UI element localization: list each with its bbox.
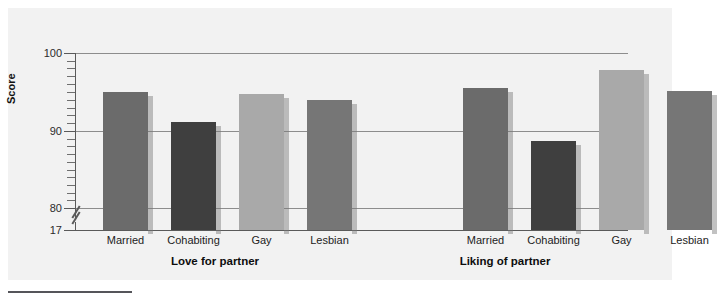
y-tick-minor	[67, 84, 75, 85]
y-tick-label-100: 100	[32, 48, 62, 58]
group-label-love-for-partner: Love for partner	[70, 255, 360, 267]
y-axis-line	[75, 53, 76, 220]
y-axis-title: Score	[5, 73, 17, 104]
bar-love-for-partner-married	[103, 92, 148, 230]
y-tick-minor	[67, 68, 75, 69]
y-tick-minor	[67, 185, 75, 186]
group-label-liking-of-partner: Liking of partner	[360, 255, 650, 267]
y-tick-minor	[67, 115, 75, 116]
bar-love-for-partner-lesbian	[307, 100, 352, 230]
bar-body	[103, 92, 148, 230]
y-tick-minor	[67, 193, 75, 194]
bar-shadow	[284, 98, 289, 234]
bar-shadow	[148, 96, 153, 234]
figure-panel: 100 90 80 17 Score MarriedCohabitingGayL…	[8, 8, 672, 280]
y-tick-minor	[67, 123, 75, 124]
bar-shadow	[712, 95, 717, 234]
y-tick-minor	[67, 154, 75, 155]
y-tick-minor	[67, 92, 75, 93]
bar-love-for-partner-cohabiting	[171, 122, 216, 230]
y-tick-17	[64, 230, 75, 231]
x-tick-label-lesbian: Lesbian	[284, 234, 376, 246]
y-tick-minor	[67, 146, 75, 147]
y-tick-label-17: 17	[32, 225, 62, 235]
y-tick-minor	[67, 76, 75, 77]
bar-liking-of-partner-cohabiting	[531, 141, 576, 230]
bar-body	[667, 91, 712, 230]
bar-love-for-partner-gay	[239, 94, 284, 230]
bar-body	[171, 122, 216, 230]
x-tick-label-lesbian: Lesbian	[644, 234, 721, 246]
bar-body	[239, 94, 284, 230]
y-tick-minor	[67, 177, 75, 178]
bar-liking-of-partner-married	[463, 88, 508, 230]
plot-area: 100 90 80 17 Score MarriedCohabitingGayL…	[8, 8, 672, 280]
bar-body	[463, 88, 508, 230]
caption-rule	[8, 291, 132, 293]
bar-shadow	[508, 92, 513, 234]
y-tick-minor	[67, 108, 75, 109]
y-tick-minor	[67, 139, 75, 140]
gridline-100	[75, 53, 628, 54]
bar-body	[307, 100, 352, 230]
bar-liking-of-partner-gay	[599, 70, 644, 230]
bar-shadow	[216, 126, 221, 234]
y-tick-minor	[67, 200, 75, 201]
y-tick-90	[64, 131, 75, 132]
y-tick-minor	[67, 100, 75, 101]
y-tick-minor	[67, 61, 75, 62]
bar-shadow	[352, 104, 357, 234]
y-tick-100	[64, 53, 75, 54]
bar-liking-of-partner-lesbian	[667, 91, 712, 230]
y-tick-minor	[67, 162, 75, 163]
y-tick-80	[64, 208, 75, 209]
bar-body	[599, 70, 644, 230]
y-tick-minor	[67, 170, 75, 171]
y-axis-break-icon	[69, 211, 83, 225]
y-tick-label-80: 80	[32, 203, 62, 213]
bar-body	[531, 141, 576, 230]
bar-shadow	[576, 145, 581, 234]
y-tick-label-90: 90	[32, 126, 62, 136]
y-axis-tick-labels: 100 90 80 17	[26, 8, 62, 280]
bar-shadow	[644, 74, 649, 234]
